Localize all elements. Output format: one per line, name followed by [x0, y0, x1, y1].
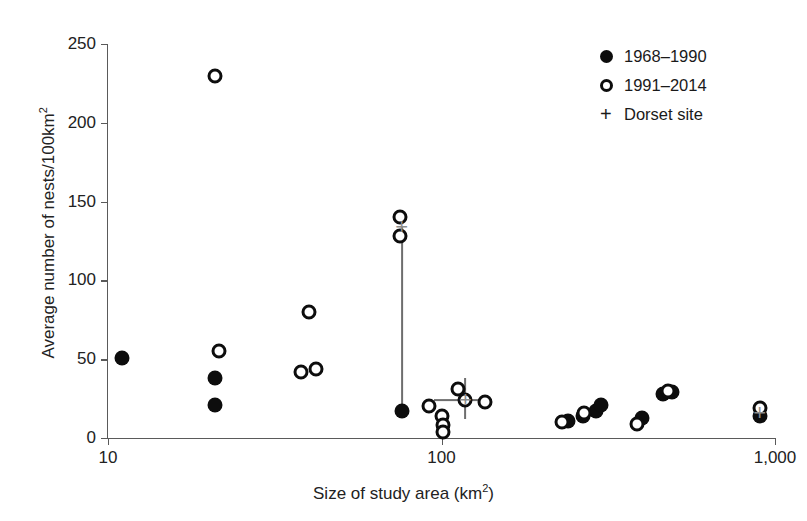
y-tick-label: 0 [36, 428, 96, 448]
error-bar-vertical [401, 227, 403, 411]
y-tick-label: 50 [36, 349, 96, 369]
data-point [477, 394, 492, 409]
x-tick-mark [108, 438, 109, 445]
x-tick-label: 100 [427, 448, 455, 468]
plus-icon-shape: + [600, 108, 612, 121]
data-point [458, 393, 473, 408]
filled-circle-icon-shape [600, 50, 613, 63]
y-tick-mark [101, 359, 108, 360]
data-point [114, 350, 129, 365]
legend-item: 1991–2014 [600, 71, 707, 100]
data-point [208, 371, 223, 386]
data-point [435, 424, 450, 439]
filled-circle-icon [600, 50, 624, 63]
open-circle-icon-shape [600, 79, 613, 92]
data-point [577, 405, 592, 420]
x-axis-title-tail: ) [488, 484, 494, 503]
open-circle-icon [600, 79, 624, 92]
y-tick-label: 200 [36, 113, 96, 133]
legend-item-label: 1968–1990 [624, 47, 707, 66]
data-point [301, 304, 316, 319]
data-point [752, 401, 767, 416]
data-point [593, 397, 608, 412]
chart-legend: 1968–19901991–2014+Dorset site [600, 42, 707, 129]
data-point [629, 416, 644, 431]
legend-item: 1968–1990 [600, 42, 707, 71]
y-tick-label: 100 [36, 270, 96, 290]
y-tick-mark [101, 202, 108, 203]
x-axis-title: Size of study area (km2) [0, 482, 807, 504]
y-tick-label: 150 [36, 192, 96, 212]
data-point [394, 404, 409, 419]
x-axis-title-text: Size of study area (km [313, 484, 482, 503]
legend-item-label: Dorset site [624, 105, 703, 124]
y-tick-mark [101, 438, 108, 439]
data-point [661, 383, 676, 398]
data-point [555, 415, 570, 430]
legend-item-label: 1991–2014 [624, 76, 707, 95]
data-point [211, 344, 226, 359]
y-axis-title: Average number of nests/100km2 [37, 33, 59, 433]
y-axis-line [107, 44, 108, 439]
plus-icon: + [600, 108, 624, 121]
data-point [208, 397, 223, 412]
y-tick-mark [101, 123, 108, 124]
x-tick-label: 10 [99, 448, 118, 468]
y-tick-label: 250 [36, 34, 96, 54]
x-tick-label: 1,000 [754, 448, 797, 468]
data-point [392, 210, 407, 225]
x-tick-mark [775, 438, 776, 445]
data-point [208, 68, 223, 83]
y-axis-title-text: Average number of nests/100km [39, 113, 58, 358]
data-point [392, 229, 407, 244]
data-point [308, 361, 323, 376]
legend-item: +Dorset site [600, 100, 707, 129]
y-tick-mark [101, 280, 108, 281]
y-tick-mark [101, 44, 108, 45]
data-point [294, 364, 309, 379]
scatter-chart-figure: Average number of nests/100km2 Size of s… [0, 0, 807, 521]
